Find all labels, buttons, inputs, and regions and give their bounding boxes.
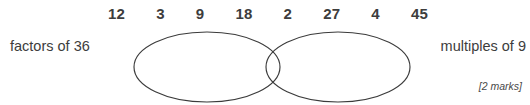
venn-diagram-question: 12 3 9 18 2 27 4 45 factors of 36 multip…	[0, 0, 530, 105]
marks-note: [2 marks]	[479, 80, 522, 92]
left-set-ellipse	[134, 32, 280, 102]
right-set-ellipse	[266, 32, 410, 102]
venn-diagram-svg	[0, 0, 530, 105]
